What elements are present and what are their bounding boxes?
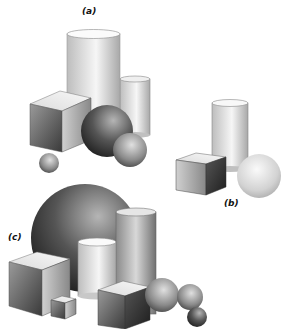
cube <box>30 91 91 152</box>
cube <box>176 153 226 195</box>
small-cube <box>51 296 76 319</box>
sphere <box>177 284 203 310</box>
sphere <box>237 154 281 198</box>
panel-label-c: (c) <box>8 232 22 242</box>
panel-b <box>176 100 281 199</box>
medium-sphere <box>113 133 147 167</box>
medium-cube <box>98 281 150 329</box>
small-sphere <box>187 307 207 327</box>
panel-a <box>30 30 150 174</box>
sphere <box>145 278 179 312</box>
panel-label-b: (b) <box>224 198 239 208</box>
small-sphere <box>39 153 59 173</box>
panel-label-a: (a) <box>82 6 96 16</box>
panel-c <box>9 184 207 329</box>
shapes-illustration <box>0 0 292 329</box>
